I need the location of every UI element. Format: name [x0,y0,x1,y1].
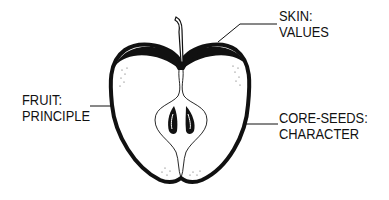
fruit-label: FRUIT: PRINCIPLE [22,92,90,124]
core-label: CORE-SEEDS: CHARACTER [279,110,368,142]
core-label-title: CORE-SEEDS: [279,110,368,126]
fruit-label-meaning: PRINCIPLE [22,108,90,124]
skin-label-meaning: VALUES [279,24,329,40]
skin-label: SKIN: VALUES [279,8,329,40]
skin-leader-line [218,24,277,42]
skin-label-title: SKIN: [279,8,329,24]
fruit-label-title: FRUIT: [22,92,90,108]
core-label-meaning: CHARACTER [279,126,368,142]
